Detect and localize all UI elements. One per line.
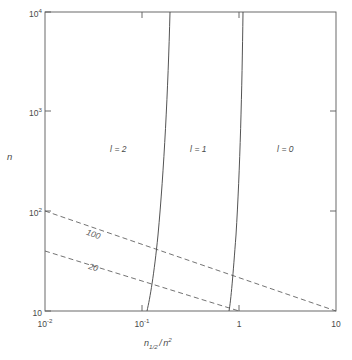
x-axis-ticks-top <box>142 12 239 18</box>
region-l-value: = 0 <box>279 144 294 154</box>
x-tick-label-1: 1 <box>228 318 250 328</box>
region-l-value: = 2 <box>112 144 127 154</box>
y-tick-exponent: 4 <box>39 7 42 14</box>
x-tick-label-0.1: 10-1 <box>128 318 156 328</box>
chart-canvas <box>0 0 352 360</box>
x-axis-title-numerator-sub: 1/2 <box>149 343 158 350</box>
contour-line-20 <box>45 251 239 311</box>
y-tick-mantissa: 10 <box>33 308 42 318</box>
y-tick-label-1000: 103 <box>20 107 42 117</box>
region-l-value: = 1 <box>192 144 207 154</box>
region-label-l-2: l= 2 <box>110 145 126 154</box>
y-tick-mantissa: 10 <box>29 208 38 218</box>
y-tick-label-10: 10 <box>20 307 42 317</box>
boundary-curve-l2-l1 <box>147 12 170 311</box>
y-tick-exponent: 3 <box>39 106 42 113</box>
y-axis-ticks-left <box>45 12 51 311</box>
region-label-l-1: l= 1 <box>190 145 206 154</box>
x-tick-exponent: -1 <box>144 317 150 324</box>
y-tick-exponent: 2 <box>39 206 42 213</box>
figure-container: 104 103 102 10 10-2 10-1 1 10 n n1/2/n2 … <box>0 0 352 360</box>
y-tick-label-10000: 104 <box>20 8 42 18</box>
y-axis-ticks-right <box>330 111 336 211</box>
y-tick-label-100: 102 <box>20 207 42 217</box>
y-tick-mantissa: 10 <box>29 9 38 19</box>
x-tick-label-10: 10 <box>325 318 347 328</box>
x-tick-label-0.01: 10-2 <box>31 318 59 328</box>
x-tick-exponent: -2 <box>47 317 53 324</box>
y-axis-title: n <box>7 152 12 162</box>
region-label-l-0: l= 0 <box>277 145 293 154</box>
x-axis-ticks-bottom <box>142 305 239 311</box>
x-tick-mantissa: 1 <box>237 319 242 329</box>
x-tick-mantissa: 10 <box>38 319 47 329</box>
x-tick-mantissa: 10 <box>135 319 144 329</box>
y-tick-mantissa: 10 <box>29 108 38 118</box>
x-axis-title-denominator-sup: 2 <box>168 336 171 343</box>
x-axis-title: n1/2/n2 <box>144 337 172 350</box>
x-tick-mantissa: 10 <box>331 319 340 329</box>
boundary-curve-l1-l0 <box>229 12 243 311</box>
